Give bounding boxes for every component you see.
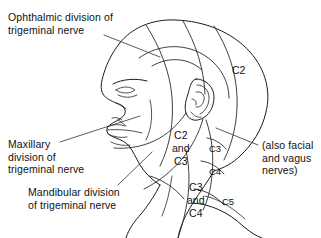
eye	[116, 87, 135, 93]
dermatome-arc-v2	[183, 21, 205, 94]
ear-antihelix	[196, 92, 204, 107]
leader-mandibular	[118, 152, 152, 185]
dermatome-label-c4: C4	[209, 166, 221, 177]
dermatome-arc-ear-inner	[152, 60, 202, 70]
eyebrow	[113, 79, 147, 84]
dermatome-boundary-lower-neck	[150, 176, 184, 199]
face-profile	[101, 44, 160, 185]
dermatome-diagram: Ophthalmic division of trigeminal nerve …	[0, 0, 321, 238]
head-outline	[119, 20, 268, 156]
ear-lobe	[191, 112, 201, 117]
ear-helix	[197, 85, 209, 114]
leader-also-nerves	[216, 128, 258, 145]
label-also-facial-and-vagus-nerves: (also facial and vagus nerves)	[262, 139, 313, 177]
dermatome-label-c5: C5	[222, 196, 234, 207]
dermatome-label-c3: C3	[209, 143, 221, 154]
eye-crease	[118, 95, 137, 97]
dermatome-label-c2: C2	[232, 64, 245, 77]
dermatome-arc-v1	[146, 25, 173, 166]
cheek-contour	[146, 100, 152, 140]
dermatome-arc-c2-outer	[214, 26, 237, 160]
nostril	[112, 118, 122, 120]
dermatome-label-c2-and-c3: C2 and C3	[172, 129, 190, 168]
mouth-line	[107, 130, 142, 133]
lower-lip	[108, 134, 127, 137]
ear-tragus	[192, 99, 196, 105]
dermatome-label-c3-and-c4: C3 and C4	[187, 181, 205, 220]
label-maxillary-division: Maxillary division of trigeminal nerve	[8, 138, 84, 176]
neck-front	[126, 185, 160, 238]
label-ophthalmic-division: Ophthalmic division of trigeminal nerve	[8, 11, 113, 36]
label-mandibular-division: Mandibular division of trigeminal nerve	[28, 186, 120, 211]
